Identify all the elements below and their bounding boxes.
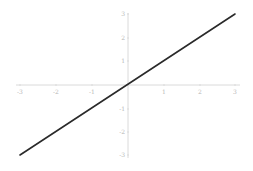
y-tick-label: -2 [119, 128, 125, 135]
x-tick-label: -2 [53, 88, 59, 95]
y-tick-label: 2 [121, 34, 125, 41]
y-tick-label: 3 [121, 10, 125, 17]
x-tick-label: 3 [233, 88, 237, 95]
y-tick-label: -3 [119, 151, 125, 158]
y-tick-label: -1 [119, 105, 125, 112]
x-tick-label: -3 [17, 88, 23, 95]
x-tick-label: 1 [162, 88, 166, 95]
y-tick-label: 1 [121, 57, 125, 64]
series-line [20, 14, 235, 155]
x-tick-label: 2 [198, 88, 202, 95]
line-plot: -3 -2 -1 1 2 3 3 2 1 -1 -2 -3 [0, 0, 253, 171]
x-tick-label: -1 [89, 88, 95, 95]
